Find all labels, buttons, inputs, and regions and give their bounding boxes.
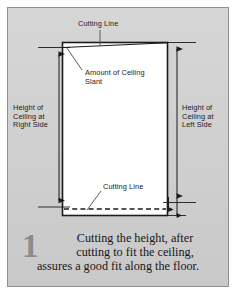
step-caption: 1 Cutting the height, after cutting to f… (8, 228, 228, 286)
caption-line-2: cutting to fit the ceiling, (8, 245, 228, 259)
label-height-of-ceiling-right-side: Height of Ceiling at Right Side (13, 104, 48, 130)
caption-line-3: assures a good fit along the floor. (8, 259, 228, 273)
label-cutting-line-top: Cutting Line (78, 20, 118, 29)
label-height-of-ceiling-left-side: Height of Ceiling at Left Side (182, 104, 214, 130)
label-cutting-line-bottom: Cutting Line (103, 183, 143, 192)
label-amount-of-ceiling-slant: Amount of Ceiling Slant (85, 69, 145, 86)
caption-text: Cutting the height, after cutting to fit… (8, 231, 228, 274)
caption-line-1: Cutting the height, after (8, 231, 228, 245)
instruction-figure: Cutting Line Amount of Ceiling Slant Hei… (0, 0, 238, 295)
